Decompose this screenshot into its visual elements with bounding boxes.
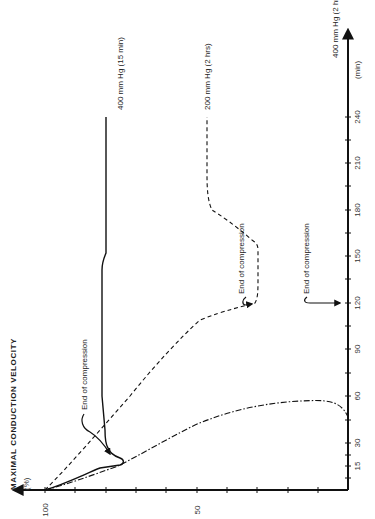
- y-unit-label: (%): [22, 477, 31, 490]
- series-400mmhg-15min: [45, 117, 123, 490]
- xtick-120: 120: [353, 296, 362, 310]
- xtick-30: 30: [353, 438, 362, 447]
- time-tick-labels: 15 30 60 90 120 150 180 210 240 (min): [353, 61, 362, 471]
- axes: [14, 30, 351, 493]
- chart-title: MAXIMAL CONDUCTION VELOCITY: [9, 338, 18, 490]
- chart-canvas: 15 30 60 90 120 150 180 210 240 (min) 10…: [0, 0, 375, 519]
- xtick-240: 240: [353, 110, 362, 124]
- xtick-180: 180: [353, 203, 362, 217]
- xtick-210: 210: [353, 156, 362, 170]
- annotation-end-of-compression-2: End of compression: [237, 223, 252, 305]
- series-label-200mmhg-2hrs: 200 mm Hg (2 hrs): [203, 43, 212, 110]
- svg-text:End of compression: End of compression: [302, 223, 311, 294]
- series-label-400mmhg-15min: 400 mm Hg (15 min): [116, 37, 125, 110]
- svg-text:End of compression: End of compression: [237, 223, 246, 294]
- xtick-150: 150: [353, 249, 362, 263]
- series-400mmhg-2hrs: [45, 401, 348, 490]
- velocity-tick-labels: 100 50: [41, 503, 202, 517]
- ytick-100: 100: [41, 503, 50, 517]
- xtick-15: 15: [353, 461, 362, 470]
- x-unit-label: (min): [353, 61, 362, 80]
- svg-text:End of compression: End of compression: [80, 339, 89, 410]
- ytick-50: 50: [193, 505, 202, 514]
- annotation-end-of-compression-3: End of compression: [302, 223, 340, 303]
- xtick-60: 60: [353, 391, 362, 400]
- series-200mmhg-2hrs: [45, 117, 258, 490]
- xtick-90: 90: [353, 344, 362, 353]
- series-label-400mmhg-2hrs: 400 mm Hg (2 hrs): [331, 0, 340, 58]
